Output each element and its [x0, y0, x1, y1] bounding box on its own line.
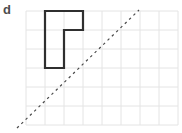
exercise-figure: d [0, 0, 182, 133]
grid-canvas [0, 0, 182, 133]
